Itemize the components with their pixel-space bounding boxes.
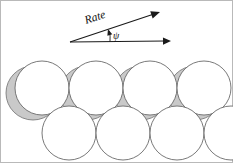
packing-circle-bottom <box>150 106 204 160</box>
reference-axis-arrowhead <box>163 37 171 44</box>
figure-container: Rate ψ <box>0 0 233 163</box>
angle-symbol-label: ψ <box>113 30 120 41</box>
diagram-canvas: Rate ψ <box>0 0 233 163</box>
circle-packing-group <box>6 61 233 160</box>
rate-vector-arrowhead <box>150 11 160 18</box>
packing-circle-bottom <box>96 106 150 160</box>
angle-arc-arrowhead <box>107 29 112 36</box>
reference-axis-line <box>70 41 165 42</box>
rate-vector-line <box>70 14 154 42</box>
rate-vector-group: Rate ψ <box>70 8 171 45</box>
packing-circle-bottom <box>42 106 96 160</box>
rate-label: Rate <box>82 8 107 26</box>
